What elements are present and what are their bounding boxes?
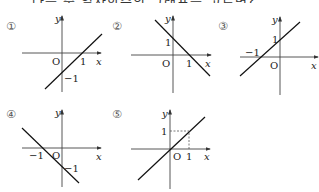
origin-label: O bbox=[52, 56, 60, 67]
option-label-1: ① bbox=[6, 20, 16, 33]
y-axis-label: y bbox=[54, 13, 61, 24]
x-axis-label: x bbox=[96, 56, 102, 67]
origin-label: O bbox=[270, 60, 278, 71]
graph-line bbox=[138, 117, 205, 180]
origin-label: O bbox=[162, 58, 170, 69]
graph-3[interactable]: ③ y x O −1 1 bbox=[218, 14, 318, 95]
graph-1[interactable]: ① y x O 1 −1 bbox=[6, 13, 102, 92]
guide-dashed-lines bbox=[170, 131, 189, 149]
graph-4[interactable]: ④ y x O −1 −1 bbox=[6, 107, 102, 187]
option-label-3: ③ bbox=[218, 20, 228, 33]
y-tick-label: 1 bbox=[272, 34, 278, 45]
origin-label: O bbox=[52, 150, 60, 161]
option-label-5: ⑤ bbox=[112, 108, 122, 121]
graph-5[interactable]: ⑤ y x O 1 1 bbox=[112, 108, 210, 189]
x-tick-label: −1 bbox=[29, 150, 44, 161]
y-tick-label: −1 bbox=[64, 73, 79, 84]
y-tick-label: 1 bbox=[165, 37, 171, 48]
x-tick-label: −1 bbox=[245, 47, 260, 58]
option-label-2: ② bbox=[112, 20, 122, 33]
y-axis-label: y bbox=[161, 108, 168, 119]
y-tick-label: 1 bbox=[161, 126, 167, 137]
x-axis-label: x bbox=[96, 151, 102, 162]
y-axis-label: y bbox=[164, 13, 171, 24]
y-tick-label: −1 bbox=[64, 163, 79, 174]
graph-options: ① y x O 1 −1 ② y x O 1 1 ③ y x O −1 1 ④ bbox=[0, 0, 319, 192]
x-tick-label: 1 bbox=[186, 58, 192, 69]
x-tick-label: 1 bbox=[80, 56, 86, 67]
origin-label: O bbox=[173, 151, 181, 162]
y-axis-label: y bbox=[271, 14, 278, 25]
x-axis-label: x bbox=[311, 60, 317, 71]
x-tick-label: 1 bbox=[186, 151, 192, 162]
x-axis-label: x bbox=[204, 151, 210, 162]
option-label-4: ④ bbox=[6, 108, 16, 121]
x-axis-label: x bbox=[205, 58, 211, 69]
graph-2[interactable]: ② y x O 1 1 bbox=[112, 13, 211, 93]
y-axis-label: y bbox=[54, 107, 61, 118]
